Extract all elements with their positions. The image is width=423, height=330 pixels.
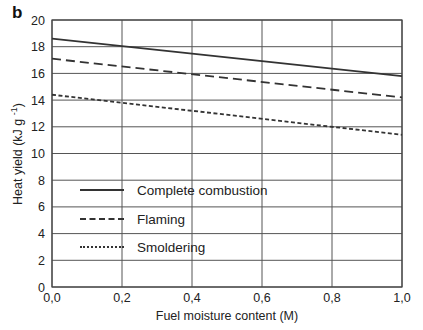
legend-item-smoldering: Smoldering [80, 237, 205, 257]
data-series [52, 39, 402, 135]
series-line-complete-combustion [52, 39, 402, 76]
y-axis-label: Heat yield (kJ g -1) [9, 103, 25, 205]
x-axis-label: Fuel moisture content (M) [156, 309, 298, 323]
x-tick-label: 0,2 [113, 291, 130, 305]
x-tick-label: 0,8 [323, 291, 340, 305]
series-line-smoldering [52, 95, 402, 135]
y-tick-label: 6 [38, 200, 45, 214]
legend-label: Smoldering [137, 240, 205, 255]
x-tick-label: 0,0 [43, 291, 60, 305]
legend-label: Flaming [137, 212, 185, 227]
x-tick-label: 0,6 [253, 291, 270, 305]
y-tick-label: 18 [31, 40, 45, 54]
x-tick-label: 0,4 [183, 291, 200, 305]
line-chart: 02468101214161820 0,00,20,40,60,81,0 Fue… [0, 0, 423, 330]
x-tick-labels: 0,00,20,40,60,81,0 [43, 291, 410, 305]
solid-line-swatch-icon [80, 189, 124, 191]
legend-label: Complete combustion [137, 183, 268, 198]
y-tick-label: 2 [38, 254, 45, 268]
y-tick-label: 8 [38, 174, 45, 188]
y-tick-label: 12 [31, 120, 45, 134]
dotted-line-swatch-icon [80, 246, 124, 248]
y-tick-label: 20 [31, 14, 45, 28]
series-line-flaming [52, 59, 402, 98]
legend-item-complete-combustion: Complete combustion [80, 180, 268, 200]
y-tick-label: 16 [31, 67, 45, 81]
x-tick-label: 1,0 [393, 291, 410, 305]
y-tick-label: 4 [38, 227, 45, 241]
dashed-line-swatch-icon [80, 218, 124, 220]
legend-item-flaming: Flaming [80, 209, 185, 229]
y-tick-label: 10 [31, 147, 45, 161]
y-tick-label: 14 [31, 94, 45, 108]
y-tick-labels: 02468101214161820 [31, 14, 45, 295]
